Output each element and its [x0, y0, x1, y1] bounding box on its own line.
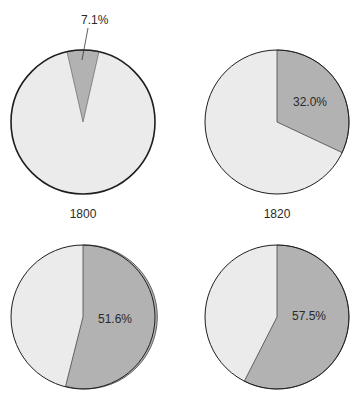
pie-4-slice-label: 57.5%	[292, 309, 326, 323]
pie-3: 51.6%	[11, 245, 157, 389]
pie-1820-caption: 1820	[264, 207, 291, 221]
pie-4: 57.5%	[205, 245, 349, 389]
pie-1800: 7.1% 1800	[11, 13, 155, 221]
pie-3-slice-label: 51.6%	[98, 312, 132, 326]
pie-1800-caption: 1800	[70, 207, 97, 221]
pie-charts: 7.1% 1800 32.0% 1820 51.6% 57.5%	[0, 0, 362, 405]
pie-1800-slice-label: 7.1%	[81, 13, 109, 27]
pie-1820: 32.0% 1820	[205, 50, 349, 221]
pie-1820-slice-label: 32.0%	[293, 95, 327, 109]
